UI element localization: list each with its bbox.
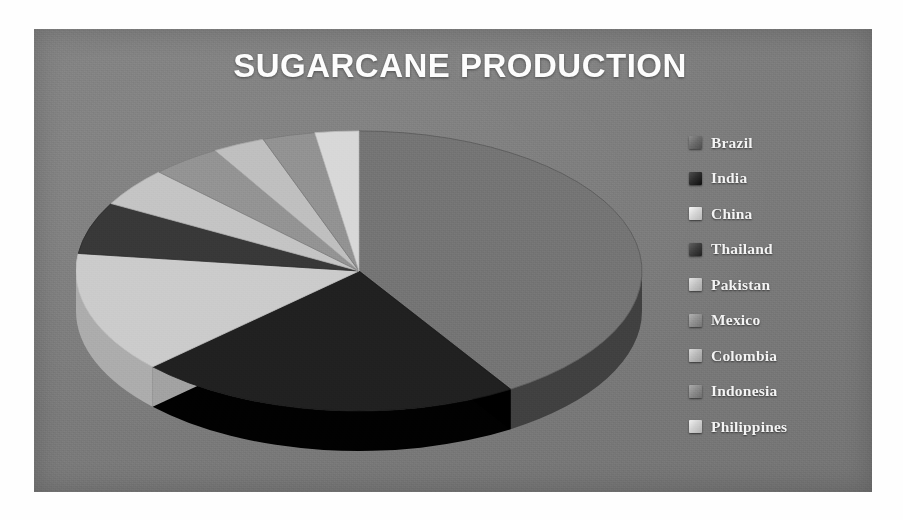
chart-title: SUGARCANE PRODUCTION bbox=[34, 47, 872, 85]
legend-item[interactable]: Colombia bbox=[689, 338, 869, 374]
pie-top-surface-layer bbox=[76, 131, 642, 411]
legend-item-label: China bbox=[711, 205, 753, 223]
legend-item-label: Thailand bbox=[711, 240, 773, 258]
legend-item[interactable]: Philippines bbox=[689, 409, 869, 445]
square-swatch-icon bbox=[689, 278, 702, 291]
square-swatch-icon bbox=[689, 314, 702, 327]
square-swatch-icon bbox=[689, 349, 702, 362]
legend-item-label: Mexico bbox=[711, 311, 760, 329]
legend-item-label: Colombia bbox=[711, 347, 777, 365]
legend-item-label: Pakistan bbox=[711, 276, 770, 294]
chart-panel: SUGARCANE PRODUCTION BrazilIndiaChinaTha… bbox=[34, 29, 872, 492]
legend-item-label: India bbox=[711, 169, 747, 187]
legend-item[interactable]: Indonesia bbox=[689, 374, 869, 410]
legend-item[interactable]: Pakistan bbox=[689, 267, 869, 303]
square-swatch-icon bbox=[689, 207, 702, 220]
legend-item[interactable]: Brazil bbox=[689, 125, 869, 161]
pie-chart-svg bbox=[76, 109, 686, 469]
square-swatch-icon bbox=[689, 136, 702, 149]
square-swatch-icon bbox=[689, 385, 702, 398]
legend-item[interactable]: China bbox=[689, 196, 869, 232]
legend-item-label: Brazil bbox=[711, 134, 753, 152]
square-swatch-icon bbox=[689, 243, 702, 256]
legend-item[interactable]: India bbox=[689, 161, 869, 197]
square-swatch-icon bbox=[689, 420, 702, 433]
legend-item[interactable]: Thailand bbox=[689, 232, 869, 268]
legend-item-label: Philippines bbox=[711, 418, 787, 436]
chart-legend: BrazilIndiaChinaThailandPakistanMexicoCo… bbox=[689, 125, 869, 445]
legend-item[interactable]: Mexico bbox=[689, 303, 869, 339]
pie-chart bbox=[76, 109, 686, 469]
legend-item-label: Indonesia bbox=[711, 382, 777, 400]
screenshot-root: SUGARCANE PRODUCTION BrazilIndiaChinaTha… bbox=[0, 0, 903, 520]
square-swatch-icon bbox=[689, 172, 702, 185]
